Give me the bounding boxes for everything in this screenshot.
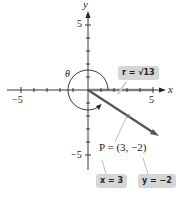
- point-p-marker: [126, 114, 130, 118]
- x-callout-leader: [102, 160, 106, 174]
- x-axis: [7, 87, 166, 93]
- x-axis-arrow-icon: [159, 88, 166, 93]
- angle-arc-arrow-icon: [96, 104, 102, 110]
- r-callout: r = √13: [118, 66, 159, 80]
- x-axis-label: x: [168, 84, 173, 95]
- r-callout-leader: [118, 82, 126, 94]
- point-p-label: P = (3, −2): [99, 142, 146, 153]
- x-tick-label-5: 5: [149, 95, 154, 105]
- y-axis-arrow-icon: [86, 11, 91, 18]
- y-callout: y = −2: [138, 174, 176, 188]
- y-tick-label-neg5: −5: [71, 150, 82, 160]
- y-callout-leader: [143, 158, 148, 174]
- y-axis-label: y: [83, 0, 88, 10]
- y-tick-label-5: 5: [77, 19, 82, 29]
- coordinate-diagram: y x 5 −5 5 −5 θ P = (3, −2) r = √13 x = …: [0, 0, 185, 199]
- x-tick-label-neg5: −5: [12, 95, 23, 105]
- x-callout: x = 3: [96, 174, 127, 188]
- terminal-ray: [88, 90, 154, 133]
- diagram-canvas: [0, 0, 185, 199]
- point-label-leader: [115, 118, 126, 142]
- angle-theta-label: θ: [65, 69, 70, 79]
